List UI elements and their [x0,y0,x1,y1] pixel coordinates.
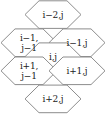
hex-neighborhood-diagram: i−2,j i−1, j−1 i−1,j i,j i+1, j−1 i+1,j … [0,0,106,114]
hex-shape-bottom [25,85,81,113]
hex-outline-layer [0,0,106,114]
hex-shape-top [25,1,81,29]
hex-shapes [1,1,105,113]
